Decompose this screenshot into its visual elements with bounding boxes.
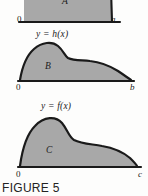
region-a-letter: A	[62, 0, 68, 6]
panel-region-c: C	[0, 113, 148, 171]
panel-region-a: A	[0, 0, 148, 24]
panel-b-end-label: b	[130, 82, 135, 92]
region-a-fill	[24, 0, 112, 22]
panel-b-curve-label: y = h(x)	[36, 29, 68, 39]
panel-region-b: B	[0, 40, 148, 84]
panel-a-end-label: a	[111, 14, 116, 24]
figure-5: A 0 a y = h(x) B 0 b y = f(x) C 0	[0, 0, 148, 196]
region-b-fill	[20, 43, 131, 80]
panel-c-curve-label: y = f(x)	[41, 101, 71, 111]
panel-b-origin-label: 0	[16, 82, 21, 92]
region-b-letter: B	[45, 61, 51, 71]
panel-c-origin-label: 0	[16, 169, 21, 179]
panel-a-plot	[0, 0, 148, 24]
region-c-letter: C	[46, 145, 52, 155]
panel-b-plot	[0, 40, 148, 84]
panel-c-plot	[0, 113, 148, 171]
panel-a-origin-label: 0	[17, 14, 22, 24]
panel-c-end-label: c	[138, 169, 142, 179]
figure-caption: FIGURE 5	[2, 181, 60, 195]
